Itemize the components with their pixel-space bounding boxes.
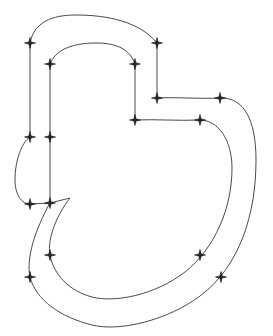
- control-point-marker[interactable]: [45, 250, 56, 261]
- marker-center-dot: [29, 203, 32, 206]
- marker-center-dot: [29, 276, 32, 279]
- control-point-marker[interactable]: [45, 59, 56, 70]
- control-point-marker[interactable]: [130, 59, 141, 70]
- control-point-marker[interactable]: [25, 272, 36, 283]
- control-point-marker[interactable]: [195, 115, 206, 126]
- marker-center-dot: [49, 202, 52, 205]
- marker-center-dot: [219, 97, 222, 100]
- marker-center-dot: [134, 63, 137, 66]
- marker-center-dot: [156, 97, 159, 100]
- figure-canvas: [0, 0, 273, 336]
- marker-center-dot: [199, 254, 202, 257]
- contour-diagram: [0, 0, 273, 336]
- marker-center-dot: [220, 276, 223, 279]
- control-point-marker[interactable]: [152, 93, 163, 104]
- marker-center-dot: [134, 119, 137, 122]
- marker-center-dot: [29, 42, 32, 45]
- control-point-marker[interactable]: [130, 115, 141, 126]
- control-point-marker[interactable]: [195, 250, 206, 261]
- marker-center-dot: [49, 254, 52, 257]
- control-point-marker[interactable]: [215, 93, 226, 104]
- contour-inner-contour: [49, 43, 232, 299]
- marker-center-dot: [199, 119, 202, 122]
- marker-center-dot: [49, 136, 52, 139]
- marker-center-dot: [49, 63, 52, 66]
- control-point-marker[interactable]: [45, 132, 56, 143]
- control-point-marker[interactable]: [25, 38, 36, 49]
- control-point-markers: [25, 38, 227, 283]
- control-point-marker[interactable]: [45, 198, 56, 209]
- marker-center-dot: [156, 42, 159, 45]
- control-point-marker[interactable]: [25, 199, 36, 210]
- marker-center-dot: [29, 136, 32, 139]
